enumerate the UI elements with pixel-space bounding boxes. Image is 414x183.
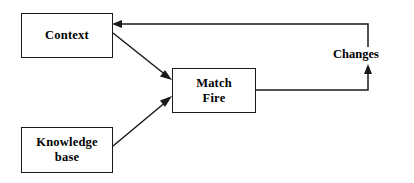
edge-label-changes: Changes xyxy=(331,47,381,62)
edge-context-to-match-fire xyxy=(113,33,172,80)
edge-knowledge-base-to-match-fire xyxy=(113,96,172,146)
node-match-fire[interactable]: Match Fire xyxy=(172,68,256,113)
edge-match-fire-to-changes xyxy=(256,64,372,90)
node-knowledge-base[interactable]: Knowledge base xyxy=(21,127,113,173)
diagram-canvas: Context Match Fire Knowledge base Change… xyxy=(0,0,414,183)
node-match-fire-label: Match Fire xyxy=(196,76,232,106)
node-knowledge-base-label: Knowledge base xyxy=(36,135,98,165)
edge-changes-to-context xyxy=(112,20,368,48)
node-context[interactable]: Context xyxy=(21,13,113,58)
node-context-label: Context xyxy=(45,28,89,43)
